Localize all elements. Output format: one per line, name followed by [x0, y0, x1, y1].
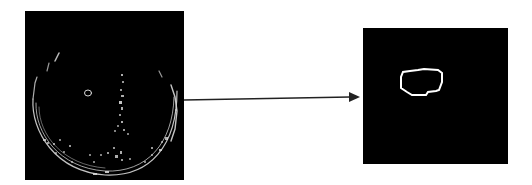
output-contour-panel: Extracted single closed contour (segment… [363, 28, 508, 164]
extracted-contour-graphic [363, 28, 508, 164]
edge-map-graphic [25, 11, 184, 180]
input-edge-image-panel: Edge-detected grayscale image of a circu… [25, 11, 184, 180]
